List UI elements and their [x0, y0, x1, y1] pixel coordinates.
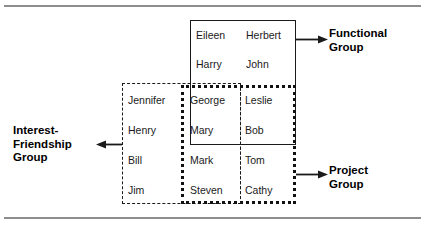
member-name: Mary	[190, 124, 213, 136]
member-name: Leslie	[245, 94, 272, 106]
member-name: Steven	[190, 184, 223, 196]
member-name: Mark	[190, 154, 213, 166]
member-name: Bill	[128, 154, 142, 166]
functional-group-label-line1: Functional	[329, 27, 387, 41]
project-group-label-line2: Group	[329, 178, 368, 192]
member-name: Jennifer	[128, 94, 165, 106]
column-divider-dashed	[240, 87, 241, 204]
member-name: Tom	[245, 154, 265, 166]
functional-group-arrow-icon	[296, 35, 328, 44]
top-divider-rule	[4, 5, 421, 7]
member-name: Herbert	[246, 29, 281, 41]
project-group-arrow-icon	[296, 170, 328, 179]
functional-group-label-line2: Group	[329, 41, 387, 55]
project-group-label-line1: Project	[329, 164, 368, 178]
member-name: Eileen	[196, 29, 225, 41]
member-name: George	[190, 94, 225, 106]
interest-friendship-group-label-line3: Group	[13, 151, 72, 165]
group-overlap-diagram: Eileen Herbert Harry John Jennifer Georg…	[0, 0, 425, 230]
interest-friendship-group-label: Interest- Friendship Group	[13, 124, 72, 165]
member-name: Cathy	[245, 184, 272, 196]
member-name: Jim	[128, 184, 144, 196]
member-name: Harry	[196, 58, 222, 70]
interest-friendship-group-label-line2: Friendship	[13, 138, 72, 152]
interest-friendship-group-arrow-icon	[96, 140, 122, 149]
member-name: John	[246, 58, 269, 70]
bottom-divider-rule	[4, 217, 421, 219]
functional-group-label: Functional Group	[329, 27, 387, 54]
member-name: Henry	[128, 124, 156, 136]
project-group-label: Project Group	[329, 164, 368, 191]
member-name: Bob	[245, 124, 264, 136]
interest-friendship-group-label-line1: Interest-	[13, 124, 72, 138]
